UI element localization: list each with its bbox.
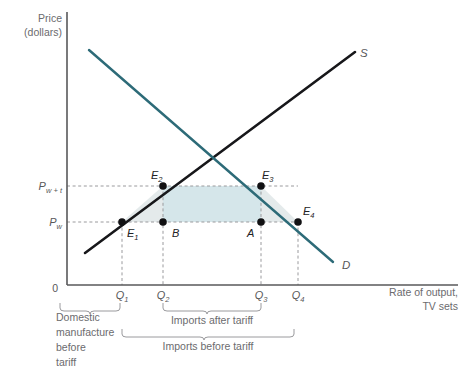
brace-label-imports-before-tariff: Imports before tariff [163,340,254,352]
quantity-tick-q4: Q4 [292,289,305,304]
tariff-diagram-figure: E1 E2 B E3 A E4 S D Price (dollars) Rate [0,0,469,374]
brace-imports-before-tariff [122,329,294,340]
point-E1 [118,218,126,226]
point-label-E2: E2 [151,169,163,184]
quantity-tick-q3: Q3 [255,289,269,304]
x-axis-label-line2: TV sets [422,300,458,312]
brace-label-imports-after-tariff: Imports after tariff [171,314,253,326]
brace-label-domestic-line1: Domestic [56,311,100,323]
y-axis-label-line1: Price [38,12,62,24]
brace-label-domestic-line3: before [56,341,86,353]
shaded-regions [122,186,298,222]
point-E4 [294,218,302,226]
point-label-A: A [246,227,254,239]
point-label-E1: E1 [127,227,139,242]
demand-curve [89,50,333,262]
price-tick-pw: Pw [49,216,62,231]
price-tick-pw-plus-t: Pw + t [39,180,63,195]
production-deadweight-loss-region [122,186,163,222]
brace-label-domestic-line2: manufacture [56,326,115,338]
demand-curve-label: D [342,259,350,271]
brace-labels: Domestic manufacture before tariff Impor… [56,311,253,368]
point-B [159,218,167,226]
brace-label-domestic-line4: tariff [56,356,76,368]
x-axis-label-line1: Rate of output, [389,286,458,298]
y-axis-label-line2: (dollars) [24,26,62,38]
point-label-E3: E3 [262,169,274,184]
supply-curve-label: S [360,47,368,59]
point-A [257,218,265,226]
origin-label: 0 [52,282,58,294]
tariff-revenue-region [163,186,261,222]
quantity-tick-q1: Q1 [116,289,129,304]
brace-imports-after-tariff [163,303,261,314]
point-label-E4: E4 [303,205,315,220]
point-E3 [257,182,265,190]
point-label-B: B [172,227,179,239]
quantity-tick-q2: Q2 [157,289,171,304]
supply-demand-tariff-chart: E1 E2 B E3 A E4 S D Price (dollars) Rate [0,0,469,374]
